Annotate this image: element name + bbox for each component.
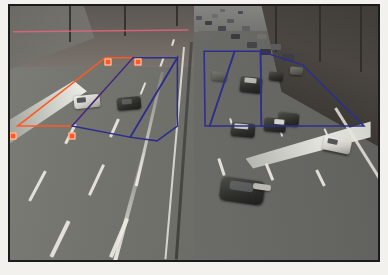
horizon-line [13, 30, 188, 32]
screenshot-canvas [0, 0, 388, 275]
annotation-overlay [10, 6, 378, 260]
roi-blue-left-a[interactable] [72, 58, 177, 137]
camera-frame [8, 4, 380, 262]
traffic-camera-image [10, 6, 378, 260]
roi-blue-left-b[interactable] [130, 58, 177, 141]
roi-blue-right-a[interactable] [204, 51, 234, 126]
roi-blue-right-c[interactable] [261, 51, 364, 126]
roi-blue-right-b[interactable] [210, 51, 262, 126]
handle-top-right[interactable] [135, 59, 142, 66]
handle-bot-mid[interactable] [69, 133, 76, 140]
handle-top-left[interactable] [105, 59, 112, 66]
roi-red-left[interactable] [18, 58, 133, 126]
handle-bot-left[interactable] [10, 133, 17, 140]
roi-svg [10, 6, 378, 260]
